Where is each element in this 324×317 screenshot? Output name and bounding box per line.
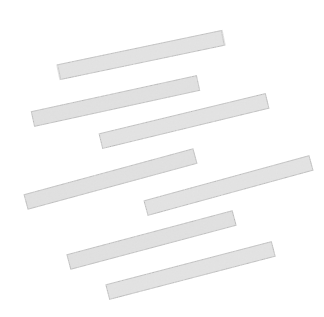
bars-figure [0, 0, 324, 317]
figure-canvas [0, 0, 324, 317]
